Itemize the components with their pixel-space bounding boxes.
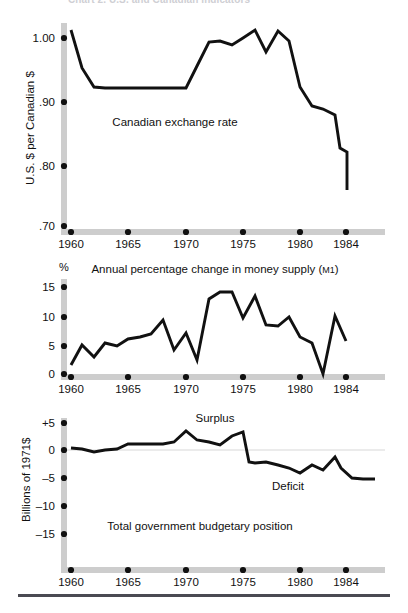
x-tick-dot xyxy=(68,374,74,380)
x-tick-dot xyxy=(343,374,349,380)
y-axis-unit: % xyxy=(59,261,69,273)
x-tick-label: 1970 xyxy=(173,576,199,588)
x-tick-label: 1960 xyxy=(58,238,84,250)
y-tick-label: .90 xyxy=(39,96,55,108)
x-tick-label: 1984 xyxy=(333,383,359,395)
chart-title-text: Annual percentage change in money supply… xyxy=(91,263,322,275)
y-axis-bar xyxy=(61,279,67,375)
x-tick-dot xyxy=(343,229,349,235)
x-tick-dot xyxy=(183,567,189,573)
x-tick-label: 1975 xyxy=(230,238,256,250)
money-supply-line xyxy=(71,292,346,374)
x-tick-label: 1984 xyxy=(333,238,359,250)
x-axis-bar xyxy=(61,567,385,573)
x-tick-label: 1960 xyxy=(58,383,84,395)
y-tick-label: –15 xyxy=(36,528,55,540)
x-tick-label: 1980 xyxy=(287,383,313,395)
x-tick-label: 1965 xyxy=(115,383,141,395)
annotation-surplus: Surplus xyxy=(196,412,235,424)
x-tick-label: 1984 xyxy=(333,576,359,588)
y-tick-label: –5 xyxy=(42,472,55,484)
series-label-exchange-rate: Canadian exchange rate xyxy=(112,116,237,128)
x-axis-bar xyxy=(61,229,385,235)
y-tick-dot xyxy=(61,420,67,426)
figure-page: Chart 2. U.S. and Canadian indicators 1.… xyxy=(0,0,408,613)
x-tick-label: 1980 xyxy=(287,238,313,250)
y-tick-dot xyxy=(61,475,67,481)
x-tick-dot xyxy=(297,567,303,573)
budget-position-plot: +5 0 –5 –10 –15 1960 1965 1970 1975 1980… xyxy=(0,400,408,590)
y-tick-dot xyxy=(61,447,67,453)
x-tick-dot xyxy=(183,229,189,235)
x-tick-dot xyxy=(125,567,131,573)
x-tick-dot xyxy=(125,374,131,380)
chart-budget-position: +5 0 –5 –10 –15 1960 1965 1970 1975 1980… xyxy=(0,400,408,590)
x-tick-label: 1975 xyxy=(230,383,256,395)
money-supply-plot: % 15 10 5 0 1960 1965 1970 1975 1980 198… xyxy=(0,255,408,395)
x-tick-label: 1970 xyxy=(173,238,199,250)
x-tick-label: 1975 xyxy=(230,576,256,588)
exchange-rate-line xyxy=(71,30,347,190)
chart-title-budget-position: Total government budgetary position xyxy=(107,520,292,532)
exchange-rate-plot: 1.00 .90 .80 .70 1960 1965 1970 1975 198… xyxy=(0,0,408,250)
x-tick-dot xyxy=(240,374,246,380)
x-axis-bar xyxy=(61,374,385,380)
bottom-rule xyxy=(18,594,390,597)
budget-position-line xyxy=(71,431,375,479)
x-tick-dot xyxy=(240,229,246,235)
annotation-deficit: Deficit xyxy=(272,480,305,492)
x-tick-dot xyxy=(343,567,349,573)
chart-title-money-supply: Annual percentage change in money supply… xyxy=(91,263,338,275)
y-axis-bar xyxy=(61,23,67,230)
x-tick-dot xyxy=(240,567,246,573)
y-tick-dot xyxy=(61,343,67,349)
y-tick-label: 1.00 xyxy=(33,32,55,44)
y-tick-dot xyxy=(61,284,67,290)
y-tick-label: 15 xyxy=(42,281,55,293)
y-tick-label: .70 xyxy=(39,220,55,232)
y-tick-label: –10 xyxy=(36,500,55,512)
chart-money-supply: % 15 10 5 0 1960 1965 1970 1975 1980 198… xyxy=(0,255,408,395)
x-tick-label: 1980 xyxy=(287,576,313,588)
y-axis-bar xyxy=(61,418,67,568)
y-tick-label: 10 xyxy=(42,311,55,323)
x-tick-dot xyxy=(297,374,303,380)
x-tick-dot xyxy=(68,229,74,235)
chart-title-text-end: ) xyxy=(335,263,339,275)
y-tick-dot xyxy=(61,371,67,377)
x-tick-dot xyxy=(125,229,131,235)
y-axis-title: U.S. $ per Canadian $ xyxy=(24,71,36,185)
x-tick-label: 1960 xyxy=(58,576,84,588)
x-tick-label: 1965 xyxy=(115,238,141,250)
y-tick-dot xyxy=(61,163,67,169)
y-tick-label: +5 xyxy=(42,417,55,429)
y-tick-dot xyxy=(61,314,67,320)
chart-title-smallcaps: M1 xyxy=(322,265,335,275)
y-tick-dot xyxy=(61,223,67,229)
chart-exchange-rate: 1.00 .90 .80 .70 1960 1965 1970 1975 198… xyxy=(0,0,408,250)
x-tick-dot xyxy=(183,374,189,380)
x-tick-dot xyxy=(68,567,74,573)
y-tick-dot xyxy=(61,503,67,509)
y-tick-label: 5 xyxy=(49,340,55,352)
y-tick-label: 0 xyxy=(49,368,55,380)
y-tick-label: .80 xyxy=(39,160,55,172)
x-tick-label: 1965 xyxy=(115,576,141,588)
x-tick-label: 1970 xyxy=(173,383,199,395)
x-tick-dot xyxy=(297,229,303,235)
y-axis-title: Billions of 1971$ xyxy=(20,437,32,522)
y-tick-dot xyxy=(61,35,67,41)
y-tick-dot xyxy=(61,99,67,105)
y-tick-dot xyxy=(61,531,67,537)
y-tick-label: 0 xyxy=(49,444,55,456)
